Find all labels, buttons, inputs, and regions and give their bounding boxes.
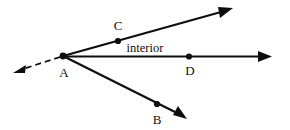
point-b-label: B [153, 112, 162, 127]
point-d-label: D [185, 63, 194, 78]
point-a-dot [60, 53, 67, 60]
geometry-diagram: A C D B interior [0, 0, 290, 130]
interior-region-label: interior [127, 41, 165, 55]
dashed-extension-line [23, 57, 60, 69]
ray-ad [63, 51, 272, 62]
point-c-dot [115, 38, 121, 44]
ray-ad-arrowhead [258, 51, 272, 62]
point-c-label: C [114, 18, 123, 33]
ray-ab-arrowhead [173, 106, 187, 119]
dashed-extension-ray [13, 57, 60, 73]
point-b-dot [154, 101, 160, 107]
geometry-canvas: A C D B interior [0, 0, 290, 130]
ray-ac-arrowhead [218, 7, 233, 18]
ray-ab [63, 56, 187, 119]
point-d-dot [186, 53, 192, 59]
dashed-extension-arrowhead [13, 65, 26, 73]
point-a-label: A [59, 65, 69, 80]
